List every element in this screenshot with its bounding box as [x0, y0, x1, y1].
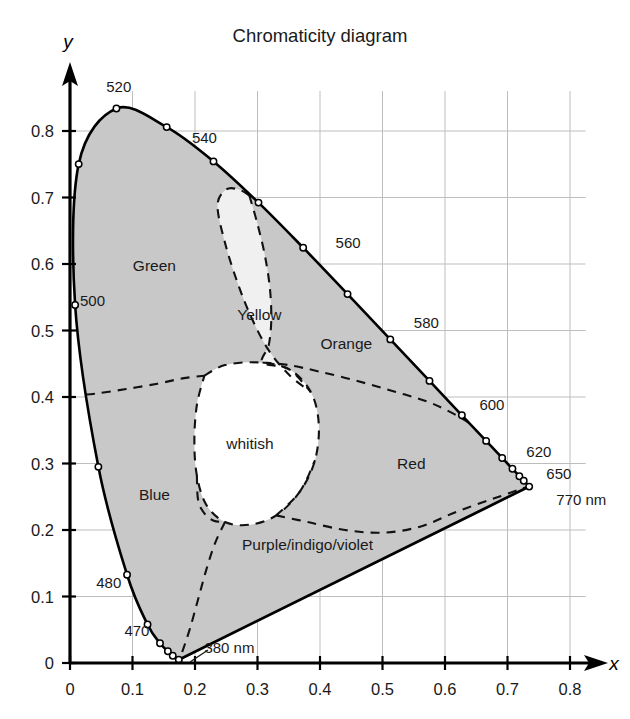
region-label-orange: Orange: [320, 335, 372, 352]
region-label-white: whitish: [225, 435, 273, 452]
wavelength-label: 540: [192, 129, 217, 146]
y-axis-tick-label: 0: [45, 654, 54, 672]
x-axis-tick-label: 0: [65, 680, 74, 698]
wavelength-label: 770 nm: [556, 491, 606, 508]
chart-title: Chromaticity diagram: [233, 25, 408, 46]
wavelength-marker: [521, 478, 527, 484]
wavelength-label: 560: [336, 234, 361, 251]
wavelength-marker: [255, 199, 261, 205]
wavelength-label: 500: [80, 292, 105, 309]
y-axis-name: y: [61, 31, 74, 52]
wavelength-label: 520: [106, 78, 131, 95]
wavelength-label: 580: [414, 314, 439, 331]
wavelength-marker: [95, 464, 101, 470]
wavelength-marker: [165, 648, 171, 654]
x-axis-tick-label: 0.7: [496, 680, 519, 698]
region-label-green: Green: [133, 257, 176, 274]
y-axis-tick-label: 0.3: [31, 455, 54, 473]
chart-svg: 00.10.20.30.40.50.60.70.800.10.20.30.40.…: [0, 0, 630, 719]
chromaticity-diagram-figure: 00.10.20.30.40.50.60.70.800.10.20.30.40.…: [0, 0, 630, 719]
wavelength-label: 480: [96, 574, 121, 591]
wavelength-label: 650: [546, 465, 571, 482]
region-label-yellow: Yellow: [237, 306, 282, 323]
wavelength-marker: [124, 572, 130, 578]
wavelength-label: 620: [526, 443, 551, 460]
y-axis-tick-label: 0.5: [31, 322, 54, 340]
wavelength-marker: [157, 640, 163, 646]
wavelength-marker: [426, 378, 432, 384]
wavelength-marker: [459, 412, 465, 418]
wavelength-marker: [163, 124, 169, 130]
wavelength-marker: [210, 158, 216, 164]
wavelength-marker: [526, 483, 532, 489]
wavelength-label: 600: [479, 396, 504, 413]
wavelength-label: 470: [124, 622, 149, 639]
y-axis-tick-label: 0.2: [31, 521, 54, 539]
x-axis-tick-label: 0.1: [121, 680, 144, 698]
wavelength-marker: [387, 336, 393, 342]
region-label-purple: Purple/indigo/violet: [242, 536, 374, 553]
wavelength-marker: [113, 105, 119, 111]
wavelength-marker: [509, 466, 515, 472]
wavelength-marker: [499, 455, 505, 461]
y-axis-tick-label: 0.6: [31, 255, 54, 273]
wavelength-marker: [483, 438, 489, 444]
y-axis-tick-label: 0.4: [31, 388, 54, 406]
x-axis-tick-label: 0.8: [559, 680, 582, 698]
x-axis-tick-label: 0.4: [309, 680, 332, 698]
y-axis-tick-label: 0.8: [31, 122, 54, 140]
wavelength-marker: [72, 302, 78, 308]
wavelength-marker: [344, 291, 350, 297]
y-axis-tick-label: 0.7: [31, 189, 54, 207]
gamut-region-fills: [73, 107, 529, 660]
x-axis-tick-label: 0.2: [184, 680, 207, 698]
region-label-red: Red: [397, 455, 425, 472]
region-label-blue: Blue: [139, 486, 170, 503]
wavelength-marker: [300, 245, 306, 251]
x-axis-tick-label: 0.3: [246, 680, 269, 698]
x-axis-name: x: [608, 653, 620, 674]
y-axis-tick-label: 0.1: [31, 588, 54, 606]
wavelength-marker: [75, 161, 81, 167]
x-axis-tick-label: 0.5: [371, 680, 394, 698]
x-axis-tick-label: 0.6: [434, 680, 457, 698]
wavelength-label: 380 nm: [204, 639, 254, 656]
